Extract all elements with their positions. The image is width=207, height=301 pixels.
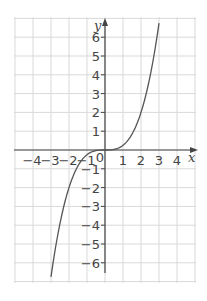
x-tick-label: −4 bbox=[22, 153, 41, 168]
y-tick-label: −2 bbox=[81, 181, 100, 196]
x-tick-label: −3 bbox=[40, 153, 59, 168]
y-tick-label: 1 bbox=[92, 124, 100, 139]
y-tick-label: 4 bbox=[92, 68, 100, 83]
y-tick-label: −1 bbox=[81, 162, 100, 177]
y-axis-label: y bbox=[93, 18, 102, 33]
y-axis-arrow-icon bbox=[102, 18, 108, 26]
y-tick-label: −5 bbox=[81, 237, 100, 252]
x-tick-label: 3 bbox=[155, 153, 163, 168]
y-tick-label: 3 bbox=[92, 87, 100, 102]
x-axis-label: x bbox=[188, 150, 196, 165]
cubic-graph: −4−3−2−101234−6−5−4−3−2−1123456 x y bbox=[0, 0, 207, 301]
x-tick-label: 2 bbox=[137, 153, 145, 168]
y-tick-label: 5 bbox=[92, 49, 100, 64]
y-tick-label: −4 bbox=[81, 218, 100, 233]
x-tick-label: −2 bbox=[58, 153, 77, 168]
y-tick-label: 2 bbox=[92, 105, 100, 120]
x-tick-label: 4 bbox=[173, 153, 181, 168]
y-tick-label: −3 bbox=[81, 199, 100, 214]
x-tick-label: 1 bbox=[119, 153, 127, 168]
y-tick-label: −6 bbox=[81, 256, 100, 271]
